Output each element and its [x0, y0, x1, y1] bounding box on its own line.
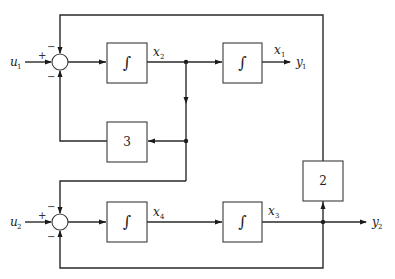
- svg-text:1: 1: [17, 63, 21, 71]
- arrow-icon: [321, 202, 326, 209]
- arrow-icon: [58, 70, 63, 77]
- integrator-block-4: ∫: [223, 202, 262, 242]
- svg-text:x: x: [153, 205, 160, 219]
- integral-symbol: ∫: [123, 53, 131, 72]
- label-u1: u 1: [10, 55, 21, 71]
- arrow-icon: [58, 207, 63, 214]
- arrow-icon: [58, 230, 63, 237]
- svg-text:1: 1: [302, 63, 306, 71]
- arrow-icon: [215, 220, 222, 225]
- svg-text:2: 2: [160, 53, 164, 61]
- integral-symbol: ∫: [238, 53, 246, 72]
- label-x3: x 3: [268, 204, 279, 220]
- block-diagram: ∫ ∫ ∫ ∫ 3 2 + − − + − − u 1 u 2 x 2 x 1: [0, 0, 395, 279]
- arrow-icon: [58, 47, 63, 54]
- gain-value: 2: [319, 174, 327, 188]
- gain-block-3: 3: [107, 122, 147, 162]
- summing-junction-1: [52, 54, 68, 70]
- arrow-icon: [215, 60, 222, 65]
- arrow-icon: [99, 60, 106, 65]
- sum1-plus-sign: +: [38, 50, 46, 61]
- svg-text:2: 2: [17, 223, 21, 231]
- label-x4: x 4: [153, 205, 165, 221]
- label-y1: y 1: [295, 55, 306, 71]
- integral-symbol: ∫: [123, 212, 131, 231]
- label-x1: x 1: [274, 43, 285, 59]
- x3-feedback-line: [60, 222, 323, 268]
- svg-text:3: 3: [275, 212, 279, 220]
- integral-symbol: ∫: [238, 212, 246, 231]
- sum1-minus-bottom-sign: −: [47, 71, 55, 82]
- svg-text:4: 4: [160, 213, 165, 221]
- arrow-icon: [99, 220, 106, 225]
- svg-text:x: x: [268, 204, 275, 218]
- svg-text:x: x: [274, 43, 281, 57]
- arrow-icon: [184, 97, 189, 104]
- integrator-block-2: ∫: [223, 43, 262, 83]
- arrow-icon: [284, 60, 291, 65]
- label-x2: x 2: [153, 45, 164, 61]
- gain3-feedback-line: [60, 71, 107, 141]
- sum2-plus-sign: +: [38, 210, 46, 221]
- integrator-block-3: ∫: [107, 202, 147, 242]
- summing-junction-2: [52, 214, 68, 230]
- sum2-minus-bottom-sign: −: [47, 231, 55, 242]
- arrow-icon: [360, 220, 367, 225]
- integrator-block-1: ∫: [107, 43, 147, 83]
- gain2-feedback-line: [60, 15, 323, 161]
- svg-text:1: 1: [281, 51, 285, 59]
- svg-text:x: x: [153, 45, 160, 59]
- arrow-icon: [148, 139, 155, 144]
- label-y2: y 2: [371, 215, 382, 231]
- gain-value: 3: [123, 135, 131, 149]
- svg-text:2: 2: [378, 223, 382, 231]
- gain-block-2: 2: [303, 161, 343, 201]
- label-u2: u 2: [10, 215, 21, 231]
- sum1-minus-top-sign: −: [47, 41, 55, 52]
- sum2-minus-top-sign: −: [47, 201, 55, 212]
